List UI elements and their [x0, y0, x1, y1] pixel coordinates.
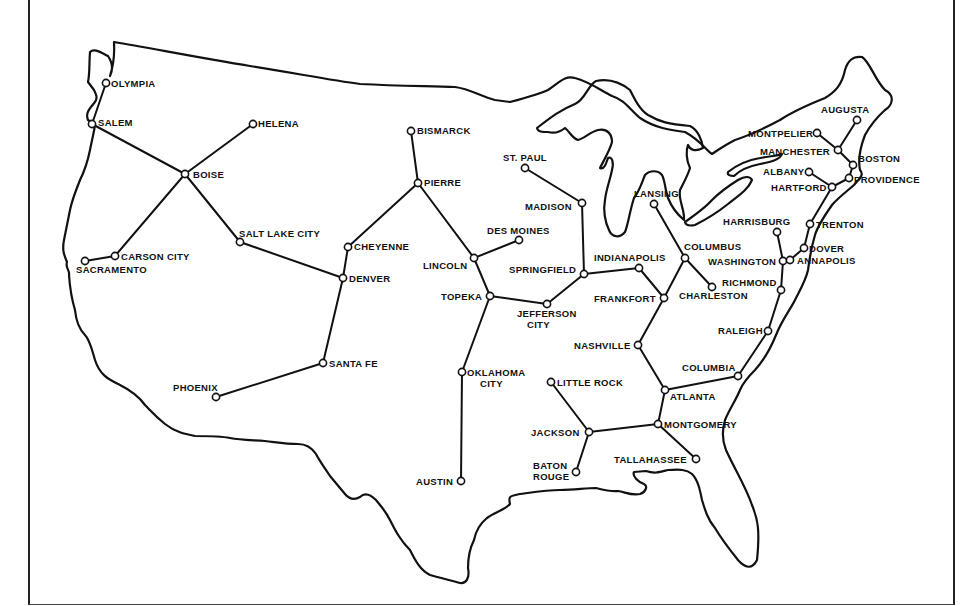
city-label: SALT LAKE CITY [239, 228, 320, 239]
edge-bismarck-pierre [411, 131, 418, 183]
city-label: RALEIGH [718, 325, 763, 336]
edge-springfield-indianapolis [584, 268, 639, 274]
edge-manchester-augusta [838, 120, 857, 150]
city-marker-icon [339, 274, 346, 281]
city-marker-icon [543, 300, 550, 307]
city-marker-icon [692, 455, 699, 462]
city-label: NASHVILLE [574, 340, 631, 351]
capital-topeka: TOPEKA [441, 291, 494, 302]
city-marker-icon [777, 286, 784, 293]
capital-albany: ALBANY [763, 166, 813, 177]
city-marker-icon [813, 129, 820, 136]
capital-phoenix: PHOENIX [173, 382, 220, 401]
edge-atlanta-columbia [665, 376, 738, 390]
city-marker-icon [585, 428, 592, 435]
capital-trenton: TRENTON [806, 219, 863, 230]
city-label: LANSING [634, 188, 679, 199]
edge-madison-springfield [582, 203, 584, 274]
city-label: AUGUSTA [821, 104, 869, 115]
city-label: COLUMBIA [682, 362, 736, 373]
city-marker-icon [661, 386, 668, 393]
city-marker-icon [457, 477, 464, 484]
city-label: LITTLE ROCK [557, 377, 623, 388]
edge-helena-boise [185, 124, 253, 174]
capital-carson-city: CARSON CITY [111, 251, 190, 262]
city-marker-icon [580, 270, 587, 277]
city-label-line2: ROUGE [533, 471, 569, 482]
city-label: TRENTON [816, 219, 864, 230]
city-label: PHOENIX [173, 382, 218, 393]
city-marker-icon [734, 372, 741, 379]
city-label: TALLAHASSEE [614, 454, 687, 465]
capital-hartford: HARTFORD [771, 182, 836, 193]
city-label: DES MOINES [487, 225, 550, 236]
city-label: FRANKFORT [594, 293, 656, 304]
city-label: WASHINGTON [708, 256, 776, 267]
capital-austin: AUSTIN [416, 476, 465, 487]
us-capitals-map: OLYMPIASALEMHELENABOISECARSON CITYSACRAM… [0, 0, 967, 606]
edge-carson_city-sacramento [85, 256, 115, 261]
city-label: BOISE [193, 169, 224, 180]
city-label: COLUMBUS [684, 241, 741, 252]
edge-topeka-oklahoma_city [462, 296, 490, 372]
city-marker-icon [834, 146, 841, 153]
city-marker-icon [407, 127, 414, 134]
city-marker-icon [249, 120, 256, 127]
city-marker-icon [111, 252, 118, 259]
edge-st_paul-madison [525, 168, 582, 203]
capital-providence: PROVIDENCE [845, 174, 919, 185]
edge-denver-santa_fe [323, 278, 343, 363]
city-label: ATLANTA [670, 391, 716, 402]
city-label: BATON [533, 460, 567, 471]
city-marker-icon [849, 161, 856, 168]
city-label: OLYMPIA [111, 78, 156, 89]
city-label: MONTPELIER [748, 128, 813, 139]
capital-dover: DOVER [800, 243, 844, 254]
city-marker-icon [805, 168, 812, 175]
city-marker-icon [660, 294, 667, 301]
city-marker-icon [547, 378, 554, 385]
capital-annapolis: ANNAPOLIS [786, 255, 855, 266]
city-label: JEFFERSON [517, 308, 577, 319]
capital-washington: WASHINGTON [708, 256, 787, 267]
edge-cheyenne-pierre [348, 183, 418, 247]
city-label-line2: CITY [480, 378, 503, 389]
city-marker-icon [236, 238, 243, 245]
city-marker-icon [572, 468, 579, 475]
city-label: DOVER [809, 243, 844, 254]
city-marker-icon [853, 116, 860, 123]
city-marker-icon [800, 244, 807, 251]
capital-olympia: OLYMPIA [102, 78, 155, 89]
capital-augusta: AUGUSTA [821, 104, 869, 124]
edge-pierre-lincoln [418, 183, 474, 258]
city-marker-icon [786, 256, 793, 263]
capital-st-paul: ST. PAUL [503, 152, 547, 172]
edge-jackson-baton_rouge [576, 432, 589, 472]
edge-cheyenne-denver [343, 247, 348, 278]
capital-springfield: SPRINGFIELD [509, 264, 588, 278]
city-label: JACKSON [531, 427, 580, 438]
city-label: BISMARCK [417, 125, 471, 136]
capital-cheyenne: CHEYENNE [344, 241, 409, 252]
city-marker-icon [88, 120, 95, 127]
city-label: MONTGOMERY [664, 419, 737, 430]
city-label: OKLAHOMA [467, 367, 525, 378]
city-label-line2: CITY [527, 319, 550, 330]
city-label: HARRISBURG [723, 216, 790, 227]
city-label: CHEYENNE [354, 241, 409, 252]
capital-nodes: OLYMPIASALEMHELENABOISECARSON CITYSACRAM… [76, 78, 920, 487]
city-label: SANTA FE [329, 358, 378, 369]
capital-jefferson-city: JEFFERSONCITY [517, 300, 577, 330]
city-label: SACRAMENTO [76, 264, 147, 275]
city-marker-icon [779, 257, 786, 264]
city-marker-icon [650, 200, 657, 207]
city-marker-icon [828, 183, 835, 190]
capital-salem: SALEM [88, 117, 132, 128]
capital-salt-lake-city: SALT LAKE CITY [236, 228, 320, 246]
city-label: CARSON CITY [121, 251, 190, 262]
edge-boise-carson_city [115, 174, 185, 256]
capital-little-rock: LITTLE ROCK [547, 377, 623, 388]
edge-lansing-columbus [654, 204, 685, 258]
edge-raleigh-richmond [768, 290, 781, 331]
city-label: TOPEKA [441, 291, 482, 302]
